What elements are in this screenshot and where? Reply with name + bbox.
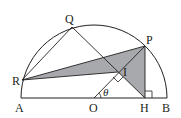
label-r: R: [12, 74, 20, 88]
label-h: H: [140, 101, 149, 115]
label-b: B: [162, 101, 170, 115]
label-i: I: [123, 65, 127, 79]
label-q: Q: [65, 12, 74, 26]
label-theta: θ: [103, 86, 109, 98]
angle-theta-arc: [99, 93, 101, 98]
right-angle-mark-h: [145, 91, 152, 98]
label-o: O: [89, 101, 98, 115]
label-p: P: [146, 33, 153, 47]
geometry-diagram: A B O H P Q R I θ: [0, 0, 181, 118]
right-angle-mark-i: [113, 77, 123, 82]
label-a: A: [15, 101, 24, 115]
